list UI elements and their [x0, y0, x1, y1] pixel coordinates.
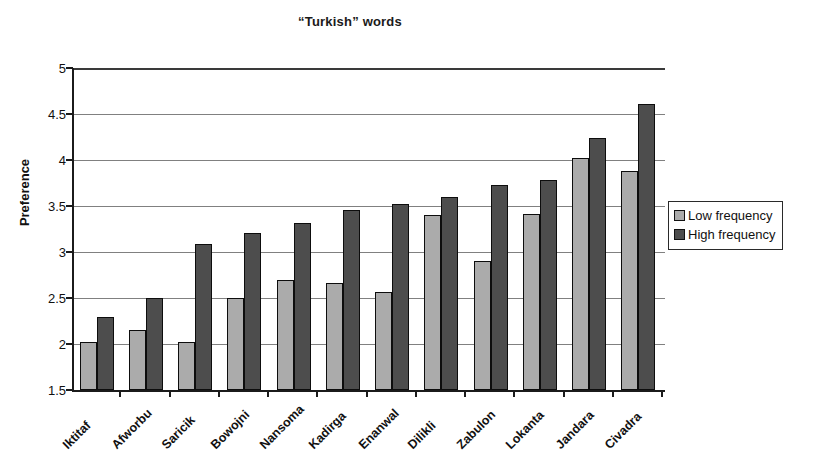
- bar-low-frequency: [375, 292, 392, 390]
- x-category-label: Lokanta: [503, 408, 547, 452]
- bar-high-frequency: [392, 204, 409, 390]
- bar-group: [72, 68, 121, 390]
- x-tick-slot: [565, 390, 614, 398]
- x-tick-slot: [368, 390, 417, 398]
- bar-high-frequency: [441, 197, 458, 390]
- bar-group: [269, 68, 318, 390]
- y-tick-label: 4.5: [26, 108, 66, 121]
- x-tick-slot: [171, 390, 220, 398]
- x-axis-ticks: [72, 390, 663, 398]
- bar-group: [515, 68, 564, 390]
- y-tick-label: 5: [26, 62, 66, 75]
- bar-low-frequency: [523, 214, 540, 390]
- x-category-label: Saricik: [159, 413, 198, 452]
- bar-group: [171, 68, 220, 390]
- x-tick-slot: [121, 390, 170, 398]
- bar-low-frequency: [178, 342, 195, 390]
- y-tick-label: 3: [26, 246, 66, 259]
- bar-high-frequency: [195, 244, 212, 390]
- bars-layer: [72, 68, 663, 390]
- bar-group: [565, 68, 614, 390]
- bar-low-frequency: [572, 158, 589, 390]
- x-category-label: Zabulon: [454, 408, 498, 452]
- x-tick-slot: [269, 390, 318, 398]
- x-category-label: Nansoma: [257, 402, 307, 452]
- x-category-label: Civadra: [602, 410, 644, 452]
- x-category-label: Iktitaf: [60, 418, 93, 451]
- bar-high-frequency: [638, 104, 655, 390]
- x-category-label: Enanwal: [356, 406, 402, 452]
- bar-low-frequency: [424, 215, 441, 390]
- x-tick-slot: [220, 390, 269, 398]
- x-category-label: Afworbu: [109, 406, 155, 452]
- x-axis-labels: IktitafAfworbuSaricikBowojniNansomaKadir…: [72, 398, 663, 476]
- y-tick-label: 1.5: [26, 384, 66, 397]
- bar-low-frequency: [474, 261, 491, 390]
- bar-group: [466, 68, 515, 390]
- bar-low-frequency: [326, 283, 343, 390]
- x-tickmark: [661, 390, 663, 397]
- chart-title: “Turkish” words: [0, 14, 700, 29]
- bar-high-frequency: [491, 185, 508, 390]
- bar-high-frequency: [540, 180, 557, 390]
- bar-group: [417, 68, 466, 390]
- x-category-label: Jandara: [553, 408, 597, 452]
- y-tick-label: 4: [26, 154, 66, 167]
- x-tick-slot: [318, 390, 367, 398]
- x-category-label: Bowojni: [208, 408, 252, 452]
- bar-low-frequency: [621, 171, 638, 390]
- legend-item-high: High frequency: [674, 225, 775, 244]
- x-tick-slot: [515, 390, 564, 398]
- legend-item-low: Low frequency: [674, 206, 775, 225]
- y-axis-ticks: 54.543.532.521.5: [0, 68, 66, 390]
- legend-label-low: Low frequency: [688, 209, 773, 222]
- bar-high-frequency: [244, 233, 261, 390]
- legend-label-high: High frequency: [688, 228, 775, 241]
- legend-swatch-low-icon: [674, 210, 685, 221]
- bar-high-frequency: [294, 223, 311, 390]
- bar-group: [318, 68, 367, 390]
- bar-high-frequency: [589, 138, 606, 390]
- bar-group: [368, 68, 417, 390]
- bar-low-frequency: [227, 298, 244, 390]
- x-category-label: Kadirga: [306, 409, 349, 452]
- y-tick-label: 2.5: [26, 292, 66, 305]
- bar-low-frequency: [129, 330, 146, 390]
- bar-low-frequency: [80, 342, 97, 390]
- bar-high-frequency: [343, 210, 360, 390]
- bar-high-frequency: [146, 298, 163, 390]
- y-tick-label: 2: [26, 338, 66, 351]
- bar-high-frequency: [97, 317, 114, 390]
- legend-swatch-high-icon: [674, 229, 685, 240]
- bar-low-frequency: [277, 280, 294, 390]
- x-category-label: Dilikli: [405, 418, 438, 451]
- bar-group: [121, 68, 170, 390]
- x-tick-slot: [614, 390, 663, 398]
- x-tick-slot: [417, 390, 466, 398]
- bar-group: [614, 68, 663, 390]
- x-tick-slot: [72, 390, 121, 398]
- bar-group: [220, 68, 269, 390]
- y-tick-label: 3.5: [26, 200, 66, 213]
- x-tick-slot: [466, 390, 515, 398]
- legend: Low frequency High frequency: [668, 201, 783, 250]
